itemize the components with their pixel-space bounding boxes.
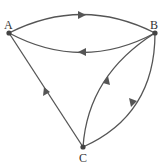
- node-b-label: B: [150, 18, 158, 32]
- graph-canvas: A B C: [0, 0, 163, 164]
- node-c: [80, 144, 85, 149]
- edge-a-to-b: [9, 15, 155, 34]
- arrow-a-to-b-icon: [78, 11, 86, 19]
- node-c-label: C: [79, 151, 87, 164]
- arrow-b-to-c-icon: [129, 98, 137, 107]
- arrow-b-to-a-icon: [78, 48, 86, 56]
- node-a-label: A: [4, 18, 13, 32]
- edge-b-to-c: [83, 33, 155, 147]
